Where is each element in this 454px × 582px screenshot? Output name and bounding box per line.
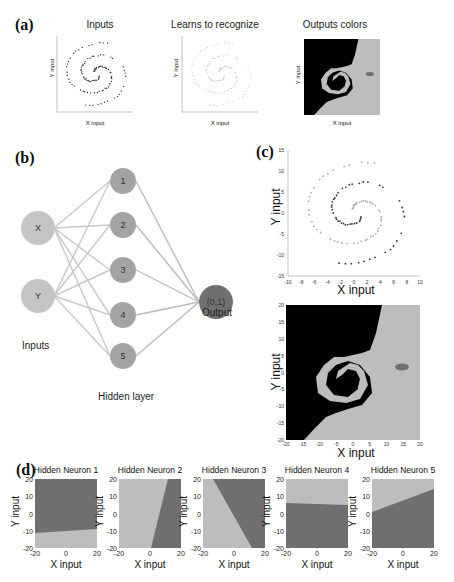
hidden-neuron-ylabel: Y input bbox=[347, 482, 358, 542]
x-tick-label: 20 bbox=[93, 550, 101, 557]
hidden-neuron-title: Hidden Neuron 1 bbox=[25, 465, 107, 475]
y-tick-label: -10 bbox=[107, 528, 117, 535]
y-tick-label: -20 bbox=[274, 545, 284, 552]
x-tick-label: 20 bbox=[344, 550, 352, 557]
y-tick-label: 20 bbox=[362, 476, 370, 483]
y-tick-label: -20 bbox=[107, 545, 117, 552]
x-tick-label: 0 bbox=[315, 550, 319, 557]
y-tick-label: 10 bbox=[109, 493, 117, 500]
hidden-neuron-title: Hidden Neuron 4 bbox=[276, 465, 358, 475]
hidden-neurons-row: Hidden Neuron 1-2002020100-10-20X inputY… bbox=[0, 0, 454, 582]
hidden-neuron-title: Hidden Neuron 5 bbox=[362, 465, 444, 475]
x-tick-label: 20 bbox=[261, 550, 269, 557]
dark-region bbox=[286, 503, 348, 548]
y-tick-label: -10 bbox=[191, 528, 201, 535]
x-tick-label: 20 bbox=[430, 550, 438, 557]
y-tick-label: -10 bbox=[274, 528, 284, 535]
x-tick-label: 0 bbox=[401, 550, 405, 557]
x-tick-label: 0 bbox=[64, 550, 68, 557]
x-tick-label: 0 bbox=[148, 550, 152, 557]
hidden-neuron-activation-map: -2002020100-10-20 bbox=[35, 479, 97, 548]
hidden-neuron-title: Hidden Neuron 3 bbox=[193, 465, 275, 475]
hidden-neuron-title: Hidden Neuron 2 bbox=[109, 465, 191, 475]
y-tick-label: 0 bbox=[366, 511, 370, 518]
y-tick-label: 0 bbox=[280, 511, 284, 518]
hidden-neuron-xlabel: X input bbox=[35, 559, 97, 570]
hidden-neuron-activation-map: -2002020100-10-20 bbox=[203, 479, 265, 548]
y-tick-label: 20 bbox=[276, 476, 284, 483]
hidden-neuron-activation-map: -2002020100-10-20 bbox=[372, 479, 434, 548]
y-tick-label: 10 bbox=[25, 493, 33, 500]
hidden-neuron-xlabel: X input bbox=[286, 559, 348, 570]
x-tick-label: 20 bbox=[177, 550, 185, 557]
y-tick-label: -20 bbox=[360, 545, 370, 552]
y-tick-label: -10 bbox=[23, 528, 33, 535]
y-tick-label: -20 bbox=[23, 545, 33, 552]
hidden-neuron-activation-map: -2002020100-10-20 bbox=[119, 479, 181, 548]
y-tick-label: 0 bbox=[197, 511, 201, 518]
hidden-neuron-ylabel: Y input bbox=[261, 482, 272, 542]
y-tick-label: 10 bbox=[362, 493, 370, 500]
dark-region bbox=[35, 479, 97, 533]
y-tick-label: 0 bbox=[113, 511, 117, 518]
hidden-neuron-xlabel: X input bbox=[203, 559, 265, 570]
y-tick-label: 20 bbox=[109, 476, 117, 483]
y-tick-label: 10 bbox=[276, 493, 284, 500]
hidden-neuron-xlabel: X input bbox=[372, 559, 434, 570]
y-tick-label: -20 bbox=[191, 545, 201, 552]
hidden-neuron-activation-map: -2002020100-10-20 bbox=[286, 479, 348, 548]
hidden-neuron-ylabel: Y input bbox=[178, 482, 189, 542]
hidden-neuron-xlabel: X input bbox=[119, 559, 181, 570]
y-tick-label: 10 bbox=[193, 493, 201, 500]
y-tick-label: 0 bbox=[29, 511, 33, 518]
y-tick-label: 20 bbox=[25, 476, 33, 483]
y-tick-label: -10 bbox=[360, 528, 370, 535]
hidden-neuron-ylabel: Y input bbox=[10, 482, 21, 542]
x-tick-label: 0 bbox=[232, 550, 236, 557]
hidden-neuron-ylabel: Y input bbox=[94, 482, 105, 542]
y-tick-label: 20 bbox=[193, 476, 201, 483]
